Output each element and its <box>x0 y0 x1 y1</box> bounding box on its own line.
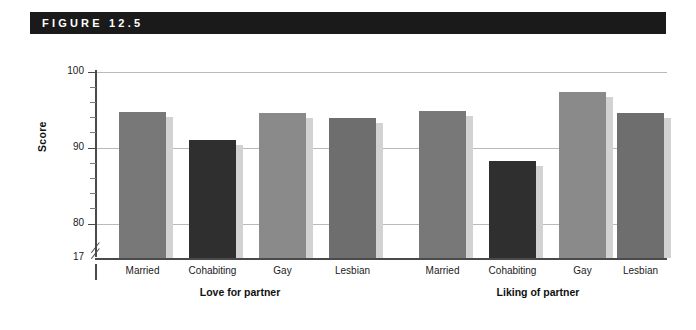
y-axis-line-lower <box>95 264 97 280</box>
bar-love-cohabiting <box>189 140 236 258</box>
y-tick-minor <box>90 87 96 88</box>
x-tick-label-liking-lesbian: Lesbian <box>607 265 674 276</box>
x-axis-line <box>95 258 667 260</box>
group-label-love-for-partner: Love for partner <box>140 286 340 298</box>
bar-love-gay <box>259 113 306 258</box>
bar-shadow <box>166 117 173 258</box>
bar-shadow <box>376 123 383 258</box>
y-tick-minor <box>90 193 96 194</box>
y-tick-label-90: 90 <box>48 141 84 152</box>
y-tick-minor <box>90 102 96 103</box>
y-tick-label-17-wrap: 17 <box>48 251 84 263</box>
bar-chart-figure: Score 100 90 80 <box>0 34 696 304</box>
y-axis-break-icon <box>88 238 104 262</box>
y-axis-title: Score <box>36 121 48 152</box>
bar-shadow <box>236 145 243 258</box>
bar-shadow <box>606 97 613 258</box>
x-tick-label-love-cohabiting: Cohabiting <box>179 265 246 276</box>
x-tick-label-love-lesbian: Lesbian <box>319 265 386 276</box>
y-tick-label-100: 100 <box>48 65 84 76</box>
y-tick-100 <box>88 72 96 73</box>
bar-liking-gay <box>559 92 606 258</box>
bar-shadow <box>466 116 473 258</box>
bar-liking-married <box>419 111 466 258</box>
bar-shadow <box>664 118 671 258</box>
bar-love-married <box>119 112 166 258</box>
bar-shadow <box>536 166 543 258</box>
bar-liking-lesbian <box>617 113 664 258</box>
y-tick-label-80-wrap: 80 <box>48 217 84 229</box>
plot-region: Score 100 90 80 <box>0 34 696 304</box>
figure-banner: FIGURE 12.5 <box>30 12 666 34</box>
x-tick-label-liking-cohabiting: Cohabiting <box>479 265 546 276</box>
y-tick-label-90-wrap: 90 <box>48 141 84 153</box>
y-tick-90 <box>88 148 96 149</box>
bar-shadow <box>306 118 313 258</box>
y-tick-minor <box>90 163 96 164</box>
y-tick-label-100-wrap: 100 <box>48 65 84 77</box>
bar-love-lesbian <box>329 118 376 258</box>
y-tick-minor <box>90 132 96 133</box>
x-tick-label-liking-gay: Gay <box>549 265 616 276</box>
x-tick-label-love-gay: Gay <box>249 265 316 276</box>
y-tick-80 <box>88 224 96 225</box>
y-tick-minor <box>90 117 96 118</box>
gridline-100 <box>96 72 667 73</box>
x-tick-label-liking-married: Married <box>409 265 476 276</box>
y-tick-minor <box>90 178 96 179</box>
y-tick-label-17: 17 <box>48 251 84 262</box>
bar-liking-cohabiting <box>489 161 536 258</box>
x-tick-label-love-married: Married <box>109 265 176 276</box>
y-tick-minor <box>90 208 96 209</box>
group-label-liking-of-partner: Liking of partner <box>438 286 638 298</box>
y-tick-label-80: 80 <box>48 217 84 228</box>
figure-banner-label: FIGURE 12.5 <box>30 17 143 29</box>
